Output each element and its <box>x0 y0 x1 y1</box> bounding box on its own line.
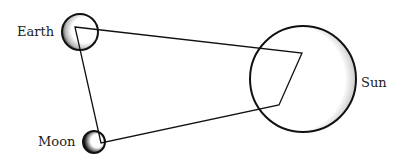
moon-body <box>83 131 105 153</box>
earth-label: Earth <box>17 24 55 39</box>
moon-label: Moon <box>38 134 76 149</box>
earth-body <box>62 14 98 50</box>
sun-label: Sun <box>361 75 387 90</box>
diagram-canvas: Earth Moon Sun <box>0 0 404 163</box>
sun-body <box>250 26 356 132</box>
